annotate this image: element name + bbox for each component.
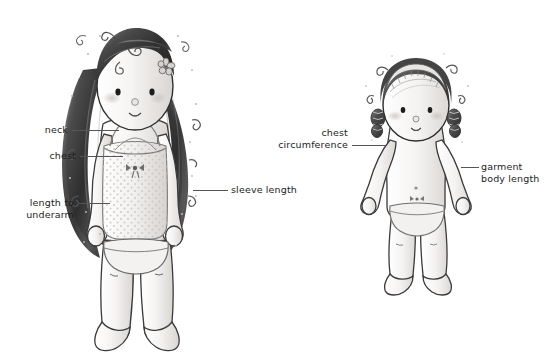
label-length-to-underarm: length to underarm: [6, 197, 74, 220]
flower-hair-clip: [158, 58, 175, 75]
right-eye: [149, 89, 154, 96]
label-chest: chest: [18, 150, 76, 162]
right-figure-group: [361, 53, 471, 295]
label-chest-circumference: chest circumference: [268, 127, 348, 150]
left-figure-group: [62, 28, 200, 351]
label-sleeve-length: sleeve length: [231, 184, 341, 196]
left-eye: [401, 107, 406, 113]
illustration-svg: [0, 0, 553, 358]
left-eye: [115, 89, 120, 96]
right-eye: [428, 107, 433, 113]
diagram-canvas: neck chest length to underarm sleeve len…: [0, 0, 553, 358]
label-neck: neck: [8, 124, 68, 136]
right-figure-head: [380, 58, 451, 141]
label-garment-body-length: garment body length: [481, 161, 553, 184]
